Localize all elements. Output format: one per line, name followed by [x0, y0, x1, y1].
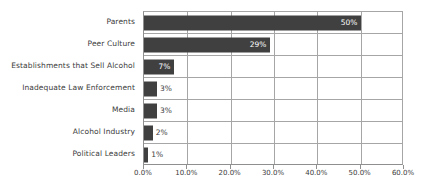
category-label: Peer Culture — [88, 40, 135, 48]
category-label-row: Alcohol Industry — [0, 121, 139, 143]
x-axis-tick-label: 20.0% — [219, 170, 241, 177]
bar[interactable] — [144, 125, 153, 140]
x-axis-tick-label: 10.0% — [175, 170, 197, 177]
bar-row[interactable]: 2% — [144, 122, 402, 144]
bar[interactable] — [144, 15, 361, 30]
category-label: Political Leaders — [72, 150, 135, 158]
category-label-row: Inadequate Law Enforcement — [0, 77, 139, 99]
bar-row[interactable]: 50% — [144, 12, 402, 34]
category-label-row: Parents — [0, 11, 139, 33]
bar-value-label: 29% — [250, 41, 266, 49]
bar-value-label: 2% — [156, 129, 168, 137]
x-axis-tick-label: 30.0% — [262, 170, 284, 177]
x-axis-tick-label: 60.0% — [392, 170, 414, 177]
bar[interactable] — [144, 81, 157, 96]
bar-value-label: 7% — [154, 63, 170, 71]
bar-row[interactable]: 3% — [144, 78, 402, 100]
category-label-row: Establishments that Sell Alcohol — [0, 55, 139, 77]
bar-value-label: 50% — [341, 19, 357, 27]
bar-value-label: 3% — [160, 85, 172, 93]
x-axis-tick-label: 0.0% — [134, 170, 152, 177]
category-label-row: Political Leaders — [0, 143, 139, 165]
bar-rows: 50%29%7%3%3%2%1% — [144, 12, 402, 164]
x-axis-tick-label: 50.0% — [349, 170, 371, 177]
category-label: Media — [112, 106, 135, 114]
x-axis-tick-labels: 0.0%10.0%20.0%30.0%40.0%50.0%60.0% — [0, 170, 422, 184]
category-label: Inadequate Law Enforcement — [22, 84, 135, 92]
bar-value-label: 1% — [151, 151, 163, 159]
bar[interactable] — [144, 148, 148, 163]
bar-row[interactable]: 3% — [144, 100, 402, 122]
category-label: Establishments that Sell Alcohol — [11, 62, 135, 70]
category-label-row: Peer Culture — [0, 33, 139, 55]
bar-row[interactable]: 1% — [144, 144, 402, 166]
bar-value-label: 3% — [160, 107, 172, 115]
x-axis-tick-label: 40.0% — [305, 170, 327, 177]
category-label-row: Media — [0, 99, 139, 121]
bar[interactable] — [144, 103, 157, 118]
plot-area: 50%29%7%3%3%2%1% — [143, 11, 403, 165]
category-label: Parents — [106, 18, 135, 26]
category-axis-labels: ParentsPeer CultureEstablishments that S… — [0, 11, 139, 165]
bar-row[interactable]: 7% — [144, 56, 402, 78]
category-label: Alcohol Industry — [73, 128, 135, 136]
bar-row[interactable]: 29% — [144, 34, 402, 56]
bar-chart: ParentsPeer CultureEstablishments that S… — [0, 0, 422, 192]
